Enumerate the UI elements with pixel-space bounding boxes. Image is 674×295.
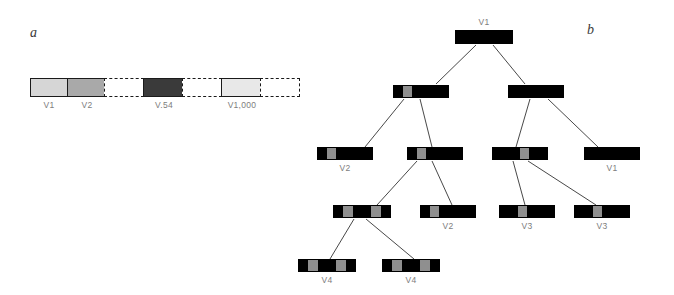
n-l5b <box>382 259 440 272</box>
n-l2b-cell-0 <box>509 86 518 97</box>
n-l2b-cell-2 <box>527 86 536 97</box>
n-l4b-cell-3 <box>448 206 457 217</box>
cell-v2-label: V2 <box>58 100 116 110</box>
n-l3b <box>407 147 463 160</box>
n-root-cell-1 <box>465 31 474 43</box>
n-l3c-cell-1 <box>502 148 511 159</box>
n-l4a-cell-5 <box>381 206 390 217</box>
n-l3a-cell-2 <box>336 148 345 159</box>
n-l2a-cell-2 <box>412 86 421 97</box>
n-l2a-cell-5 <box>439 86 448 97</box>
n-l5a-cell-0 <box>299 260 308 271</box>
n-root-cell-3 <box>484 31 493 43</box>
gap-1 <box>104 78 144 97</box>
n-l3c-cell-2 <box>511 148 520 159</box>
n-l3c-cell-5 <box>538 148 547 159</box>
n-l3b-cell-0 <box>408 148 417 159</box>
n-l2a-cell-4 <box>430 86 439 97</box>
n-l2a-cell-1 <box>403 86 412 97</box>
e-root-l2b <box>493 45 525 84</box>
n-l3a-cell-5 <box>363 148 372 159</box>
n-l3a-cell-1 <box>327 148 336 159</box>
n-l4b-cell-1 <box>430 206 439 217</box>
n-l5b-cell-3 <box>411 260 420 271</box>
n-l5a-cell-1 <box>308 260 317 271</box>
n-l2a <box>393 85 449 98</box>
n-l2b-cell-4 <box>545 86 554 97</box>
n-l4a-cell-0 <box>334 206 343 217</box>
n-l5b-cell-1 <box>392 260 401 271</box>
n-l5a-cell-5 <box>346 260 355 271</box>
e-l2a-l3a <box>365 99 404 147</box>
n-l4d-cell-3 <box>602 206 611 217</box>
cell-v1000 <box>221 78 261 97</box>
n-l5b-cell-5 <box>430 260 439 271</box>
n-l5b-cell-4 <box>420 260 429 271</box>
figure-root: a V1V2V.54V1,000 b V1V2V1V2V3V3V4V4 <box>0 0 674 295</box>
n-l3c <box>492 147 548 160</box>
n-l3b-cell-1 <box>417 148 426 159</box>
n-l3d <box>584 147 640 160</box>
panel-b: b V1V2V1V2V3V3V4V4 <box>280 0 674 295</box>
n-root <box>455 30 513 44</box>
e-l2a-l3b <box>420 99 432 147</box>
n-l2a-cell-3 <box>421 86 430 97</box>
n-l5a-cell-3 <box>327 260 336 271</box>
n-l3c-cell-4 <box>529 148 538 159</box>
e-root-l2a <box>436 45 476 84</box>
n-l3d-cell-0 <box>585 148 594 159</box>
n-l3d-label: V1 <box>564 163 660 173</box>
n-l3a-cell-3 <box>345 148 354 159</box>
e-l2b-l3c <box>516 99 530 147</box>
n-l3d-cell-2 <box>603 148 612 159</box>
n-l3c-cell-0 <box>493 148 502 159</box>
n-root-label: V1 <box>435 17 533 27</box>
n-l2a-cell-0 <box>394 86 403 97</box>
panel-a-letter: a <box>30 25 37 41</box>
n-l4a <box>333 205 391 218</box>
n-l3b-cell-2 <box>426 148 435 159</box>
n-l3b-cell-4 <box>444 148 453 159</box>
n-l4a-cell-4 <box>371 206 380 217</box>
cell-v1000-label: V1,000 <box>212 100 272 110</box>
n-l5b-cell-2 <box>402 260 411 271</box>
cell-v54-label: V.54 <box>134 100 194 110</box>
n-l4d-cell-1 <box>584 206 593 217</box>
n-l2b-cell-5 <box>554 86 563 97</box>
e-l2b-l3d <box>548 99 598 147</box>
n-l2b <box>508 85 564 98</box>
n-l3d-cell-4 <box>621 148 630 159</box>
n-l4a-cell-1 <box>343 206 352 217</box>
n-l4d-cell-5 <box>620 206 629 217</box>
n-l3c-cell-3 <box>520 148 529 159</box>
n-l4c-cell-2 <box>518 206 527 217</box>
n-root-cell-2 <box>475 31 484 43</box>
e-l4a-l5a <box>330 219 354 259</box>
n-l4c-cell-3 <box>527 206 536 217</box>
n-l4b-cell-4 <box>457 206 466 217</box>
n-l5b-label: V4 <box>362 275 460 285</box>
n-l4b <box>420 205 476 218</box>
panel-a: a V1V2V.54V1,000 <box>0 0 300 147</box>
n-l4c <box>499 205 555 218</box>
n-l4c-cell-0 <box>500 206 509 217</box>
n-l3a <box>317 147 373 160</box>
n-l5a <box>298 259 356 272</box>
n-l4d-cell-2 <box>593 206 602 217</box>
n-root-cell-5 <box>503 31 512 43</box>
n-l2b-cell-1 <box>518 86 527 97</box>
n-l4b-cell-5 <box>466 206 475 217</box>
n-l3a-cell-4 <box>354 148 363 159</box>
n-l4d-cell-0 <box>575 206 584 217</box>
n-l4c-cell-4 <box>536 206 545 217</box>
n-l5b-cell-0 <box>383 260 392 271</box>
n-l3a-cell-0 <box>318 148 327 159</box>
n-l3d-cell-5 <box>630 148 639 159</box>
n-l3d-cell-1 <box>594 148 603 159</box>
n-l4b-cell-2 <box>439 206 448 217</box>
n-l4d-label: V3 <box>554 221 650 231</box>
cell-v54 <box>143 78 183 97</box>
n-l2b-cell-3 <box>536 86 545 97</box>
n-l4c-cell-1 <box>509 206 518 217</box>
n-l4a-cell-2 <box>353 206 362 217</box>
